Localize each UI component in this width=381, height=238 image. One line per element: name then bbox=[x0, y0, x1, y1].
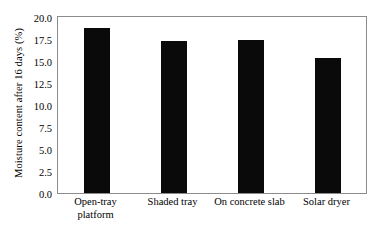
bar bbox=[84, 28, 110, 193]
y-axis-tick-labels: 20.017.515.012.510.07.55.02.50.0 bbox=[22, 17, 52, 193]
bar bbox=[238, 40, 264, 193]
y-axis-tick-label: 2.5 bbox=[22, 167, 52, 178]
plot-area bbox=[58, 17, 366, 193]
y-axis-tick-label: 7.5 bbox=[22, 123, 52, 134]
y-axis-tick-label: 5.0 bbox=[22, 145, 52, 156]
y-axis-tick-label: 0.0 bbox=[22, 189, 52, 200]
y-axis-tick-label: 10.0 bbox=[22, 101, 52, 112]
y-axis-tick-label: 15.0 bbox=[22, 57, 52, 68]
plot-frame bbox=[57, 16, 367, 194]
bar-chart-figure: Moisture content after 16 days (%) 20.01… bbox=[0, 0, 381, 238]
x-axis-tick-labels: Open-tray platformShaded trayOn concrete… bbox=[57, 196, 367, 236]
y-axis-tick-label: 17.5 bbox=[22, 35, 52, 46]
y-axis-tick-label: 20.0 bbox=[22, 13, 52, 24]
y-axis-tick-label: 12.5 bbox=[22, 79, 52, 90]
bar bbox=[315, 58, 341, 193]
x-axis-tick-label: Solar dryer bbox=[280, 196, 373, 209]
bar bbox=[161, 41, 187, 193]
